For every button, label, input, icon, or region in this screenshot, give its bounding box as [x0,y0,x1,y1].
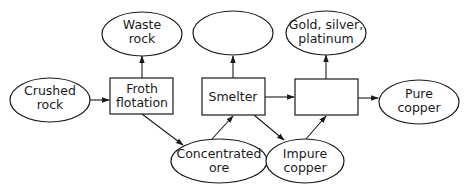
node-froth-flotation: Froth flotation [110,78,173,114]
edge-smelter-to-impure-copper [254,115,284,140]
edge-concentrated-ore-to-smelter [212,116,233,139]
node-label: rock [37,97,64,112]
node-crushed-rock: Crushed rock [10,78,90,122]
node-impure-copper: Impure copper [266,139,344,183]
node-label: Gold, silver, [289,17,363,32]
node-label: Impure [283,146,328,161]
node-waste-rock: Waste rock [102,12,182,56]
copper-process-diagram: Crushed rock Froth flotation Waste rock … [0,0,471,192]
node-label: Froth [126,81,158,96]
node-concentrated-ore: Concentrated ore [171,139,267,183]
node-label: Waste [123,17,162,32]
node-label: copper [283,160,327,175]
node-label: Smelter [208,89,258,104]
node-precious-metals: Gold, silver, platinum [286,11,366,55]
node-blank-process [295,79,358,115]
node-label: Pure [405,86,433,101]
node-label: ore [209,160,230,175]
node-label: Concentrated [176,146,261,161]
node-blank-output [193,11,273,55]
edge-froth-flotation-to-concentrated-ore [142,114,183,145]
node-smelter: Smelter [202,78,265,115]
node-label: rock [129,31,156,46]
node-pure-copper: Pure copper [379,80,459,124]
node-label: flotation [116,95,168,110]
edge-impure-copper-to-blank-process [306,116,326,139]
node-label: Crushed [24,83,76,98]
node-label: copper [397,100,441,115]
node-label: platinum [298,31,353,46]
